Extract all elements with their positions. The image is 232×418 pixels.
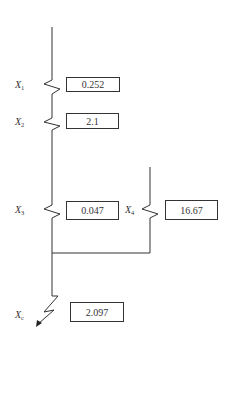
xc-label: Xc — [15, 310, 24, 323]
x1-value-box: 0.252 — [66, 77, 120, 92]
x3-value-box: 0.047 — [66, 201, 119, 220]
x1-label: X1 — [15, 80, 24, 93]
xc-value-box: 2.097 — [70, 302, 124, 322]
x3-label: X3 — [15, 205, 24, 218]
x2-label: X2 — [15, 117, 24, 130]
x2-value-box: 2.1 — [66, 113, 119, 129]
x4-value-box: 16.67 — [165, 200, 218, 220]
main-branch-wire — [44, 27, 60, 296]
fault-symbol — [38, 296, 58, 324]
x4-label: X4 — [125, 205, 134, 218]
x4-branch-wire — [142, 167, 158, 253]
